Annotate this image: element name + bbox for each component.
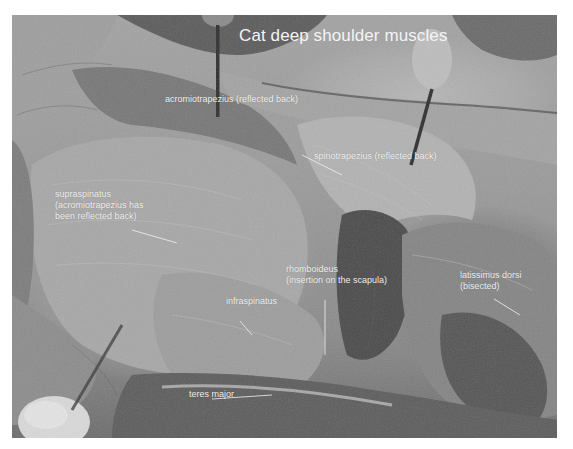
label-supraspinatus-line1: supraspinatus	[55, 189, 144, 200]
label-teres-major: teres major	[189, 389, 234, 400]
dissection-photo: Cat deep shoulder muscles acromiotrapezi…	[12, 15, 557, 438]
label-spinotrapezius: spinotrapezius (reflected back)	[314, 151, 437, 162]
label-supraspinatus: supraspinatus (acromiotrapezius has been…	[55, 189, 144, 222]
label-rhomboideus-line2: (insertion on the scapula)	[286, 275, 387, 286]
label-rhomboideus: rhomboideus (insertion on the scapula)	[286, 264, 387, 286]
slide-title: Cat deep shoulder muscles	[239, 26, 448, 46]
label-supraspinatus-line2: (acromiotrapezius has	[55, 200, 144, 211]
photo-tissue-shapes	[12, 15, 557, 438]
label-rhomboideus-line1: rhomboideus	[286, 264, 387, 275]
label-latissimus-line1: latissimus dorsi	[460, 270, 522, 281]
label-latissimus-dorsi: latissimus dorsi (bisected)	[460, 270, 522, 292]
label-acromiotrapezius: acromiotrapezius (reflected back)	[165, 94, 298, 105]
label-supraspinatus-line3: been reflected back)	[55, 211, 144, 222]
label-infraspinatus: infraspinatus	[226, 296, 277, 307]
label-latissimus-line2: (bisected)	[460, 281, 522, 292]
